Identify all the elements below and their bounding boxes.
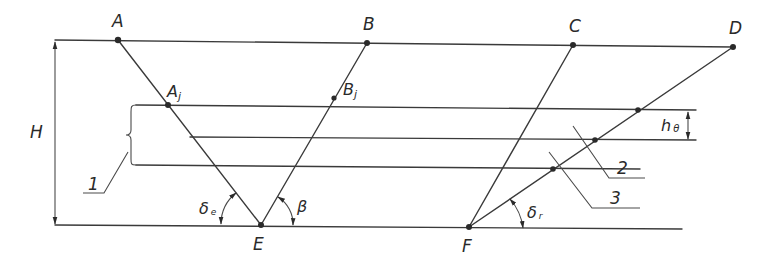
label-E: E xyxy=(253,234,264,254)
label-Bj: Bj xyxy=(343,80,358,101)
layer-line-3 xyxy=(136,165,640,169)
point-C xyxy=(570,42,576,48)
point-Aj xyxy=(165,102,171,108)
line-C-F xyxy=(469,45,573,227)
line-B-E xyxy=(261,43,367,225)
label-delta-e: δe xyxy=(199,199,217,218)
label-C: C xyxy=(569,16,581,36)
line-D-F xyxy=(469,47,733,227)
point-D-layer-1 xyxy=(635,107,641,113)
point-A xyxy=(115,37,121,43)
point-D xyxy=(730,44,736,50)
leader-2 xyxy=(573,126,645,178)
bottom-line xyxy=(55,225,682,229)
label-h-theta: hθ xyxy=(661,116,679,135)
label-D: D xyxy=(729,18,742,38)
layer-line-2 xyxy=(190,137,696,140)
point-F xyxy=(466,224,472,230)
label-B: B xyxy=(363,14,375,34)
point-Bj xyxy=(331,95,336,100)
point-D-layer-2 xyxy=(592,137,598,143)
label-delta-r: δr xyxy=(527,203,544,222)
angle-arc-delta-r xyxy=(510,199,523,228)
label-A: A xyxy=(111,11,124,31)
point-B xyxy=(364,40,370,46)
label-H: H xyxy=(30,122,43,142)
callout-3: 3 xyxy=(610,188,621,208)
line-A-E xyxy=(118,40,261,225)
point-E xyxy=(258,222,264,228)
angle-arc-delta-e xyxy=(221,193,236,224)
label-Aj: Aj xyxy=(166,82,182,103)
layer-line-1 xyxy=(136,105,696,110)
construction-diagram: A B C D E F Aj Bj H hθ δe β δr 1 2 3 xyxy=(0,0,769,261)
angle-arc-beta xyxy=(278,197,293,225)
brace xyxy=(126,105,136,165)
callout-1: 1 xyxy=(88,174,99,194)
label-F: F xyxy=(462,236,472,256)
point-D-layer-3 xyxy=(550,166,556,172)
top-line xyxy=(55,40,733,47)
label-beta: β xyxy=(296,197,307,216)
callout-2: 2 xyxy=(617,158,628,178)
